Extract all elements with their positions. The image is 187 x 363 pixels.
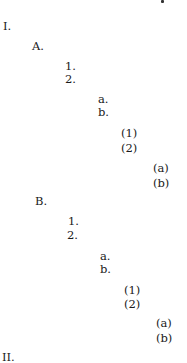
outline-level5-1: (1)	[124, 284, 140, 297]
stray-mark	[161, 0, 164, 3]
outline-level5-2: (2)	[121, 142, 137, 155]
outline-level5-2: (2)	[124, 298, 140, 311]
outline-level6-a: (a)	[153, 162, 169, 175]
outline-level2-B: B.	[35, 195, 47, 208]
outline-level3-2: 2.	[65, 73, 76, 86]
outline-level6-b: (b)	[153, 177, 169, 190]
outline-level3-1: 1.	[68, 215, 79, 228]
outline-level5-1: (1)	[121, 127, 137, 140]
outline-level6-a: (a)	[156, 317, 172, 330]
outline-level1-I: I.	[3, 20, 11, 33]
outline-level3-2: 2.	[67, 229, 78, 242]
outline-level2-A: A.	[32, 40, 44, 53]
outline-level4-b: b.	[98, 106, 109, 119]
outline-document: I. A. 1. 2. a. b. (1) (2) (a) (b) B. 1. …	[0, 0, 187, 363]
outline-level4-b: b.	[100, 263, 111, 276]
outline-level1-II: II.	[2, 351, 15, 363]
outline-level6-b: (b)	[156, 332, 172, 345]
